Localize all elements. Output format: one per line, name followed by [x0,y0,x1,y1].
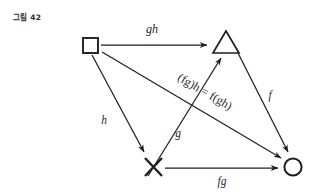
edge-label-gh: gh [146,22,158,36]
edge-label-g: g [175,127,181,140]
triangle-node-shape [213,31,239,53]
circle-node-shape [284,158,301,175]
edge-square-to-triangle: gh [101,22,207,45]
square-node-shape [83,38,98,53]
triangle-node [213,31,239,53]
edge-label-associativity: (fg)h = f(gh) [175,70,235,112]
edge-line-h [92,55,144,152]
square-node [83,38,98,53]
edge-label-f: f [268,89,273,102]
edge-label-fg: fg [218,175,227,188]
figure-root: 그림 42 gh h g f f [0,0,318,194]
edge-line-associativity [102,52,281,158]
edge-square-to-circle: (fg)h = f(gh) [102,52,281,158]
edge-cross-to-circle: fg [165,168,278,188]
edge-square-to-cross: h [92,55,144,152]
cross-node [145,158,162,176]
edge-label-h: h [101,114,107,126]
circle-node [284,158,301,175]
commutative-diagram: gh h g f fg (fg)h = f(gh) [0,0,318,194]
